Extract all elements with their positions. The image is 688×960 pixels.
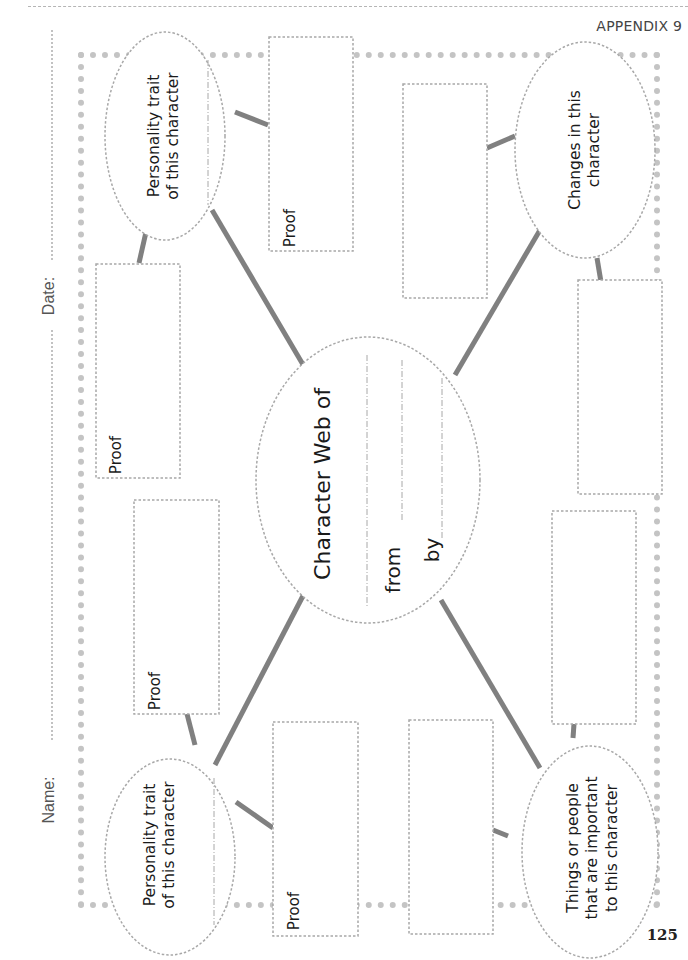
- oval-bottom-right-label: Things or people that are important to t…: [564, 777, 622, 920]
- name-label: Name:: [40, 776, 58, 823]
- box-right-lower: [552, 511, 636, 724]
- box-top-right-inner: [403, 84, 487, 298]
- oval-top-left-label: Personality trait of this character: [145, 72, 184, 199]
- proof-label-top-left: Proof: [281, 209, 299, 247]
- box-bottom-inner: [409, 720, 493, 934]
- oval-bottom-left-label: Personality trait of this character: [141, 781, 180, 908]
- proof-label-bottom-left: Proof: [285, 892, 303, 930]
- proof-label-left-lower: Proof: [146, 672, 164, 710]
- box-right-upper: [578, 280, 662, 494]
- oval-center: [256, 337, 480, 623]
- proof-label-left-upper: Proof: [107, 436, 125, 474]
- center-from-label: from: [381, 547, 405, 594]
- date-label: Date:: [40, 277, 58, 315]
- oval-top-right-label: Changes in this character: [566, 90, 605, 210]
- center-title: Character Web of: [310, 388, 335, 580]
- center-by-label: by: [420, 538, 444, 563]
